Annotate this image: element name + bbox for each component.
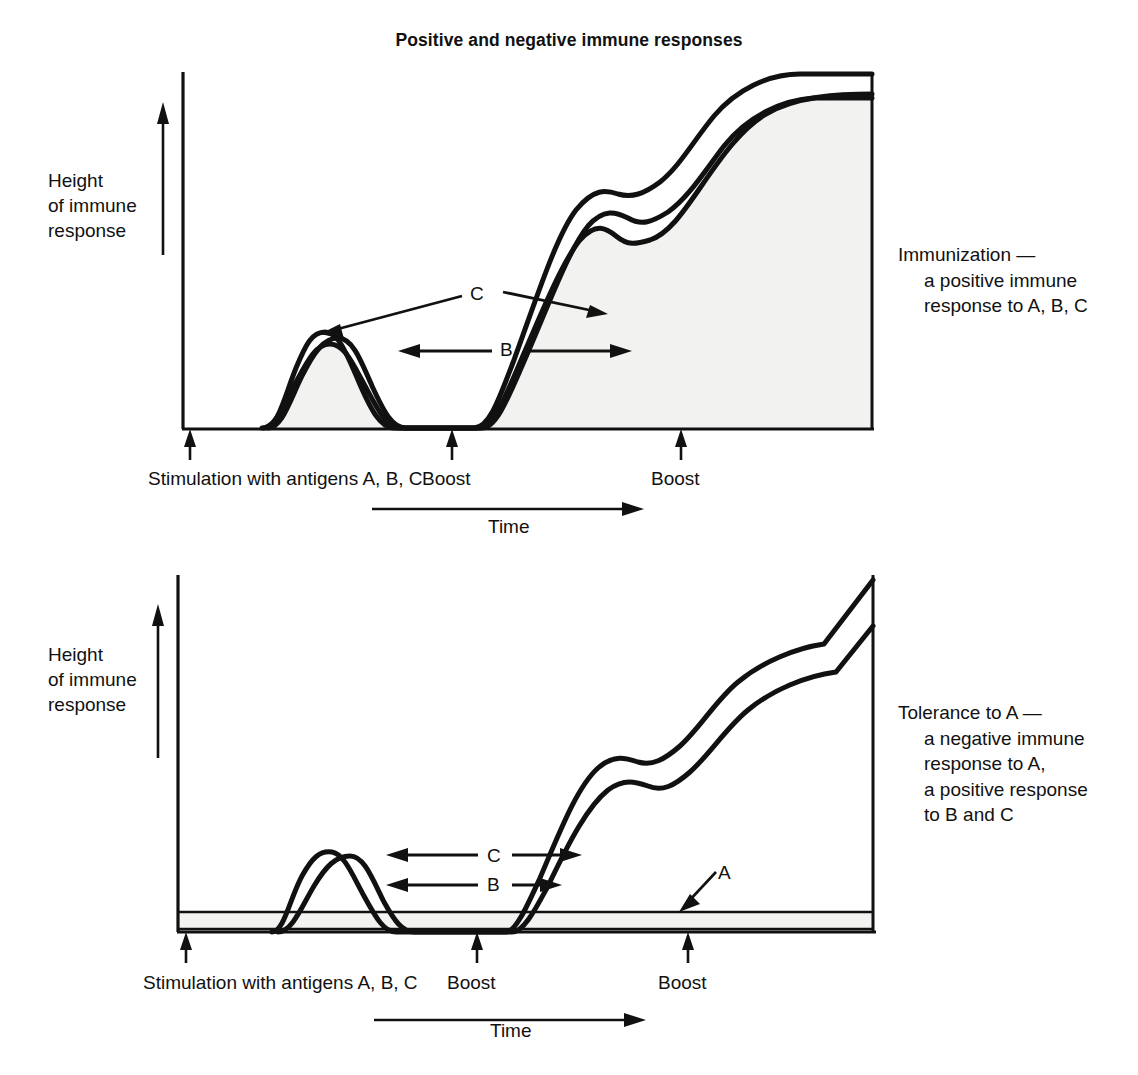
panel2-leader-b-left (386, 878, 478, 892)
panel1-plot (0, 0, 1138, 540)
panel2-curve-b (278, 626, 873, 932)
panel1-tick-arrow-boost-1 (446, 429, 458, 460)
panel1-y-direction-arrow (157, 102, 169, 255)
panel2-curve-c (272, 580, 873, 932)
panel1-time-arrow (372, 502, 644, 516)
figure-root: Positive and negative immune responses H… (0, 0, 1138, 1075)
panel1-leader-b-left (398, 344, 492, 358)
panel2-plot (0, 560, 1138, 1075)
panel1-tick-arrow-stimulation (184, 429, 196, 460)
panel2-tick-arrow-boost-2 (682, 932, 694, 963)
panel2-y-direction-arrow (152, 604, 164, 758)
panel2-leader-a (679, 872, 716, 912)
panel1-tick-arrow-boost-2 (675, 429, 687, 460)
panel2-leader-c-left (386, 848, 478, 862)
panel2-tick-arrow-stimulation (180, 932, 192, 963)
panel2-tick-arrow-boost-1 (471, 932, 483, 963)
panel1-leader-c-left (320, 296, 462, 339)
panel2-time-arrow (374, 1013, 646, 1027)
